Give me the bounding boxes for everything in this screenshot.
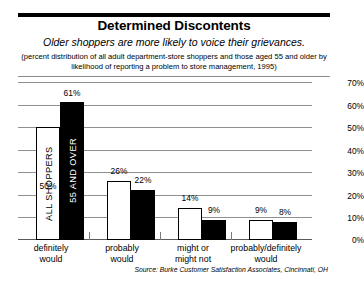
source-note: Source: Burke Customer Satisfaction Asso…	[134, 266, 328, 273]
chart-title: Determined Discontents	[0, 18, 348, 33]
ytick-60: 60%	[332, 101, 364, 111]
value-label-55-over-definitely-would: 61%	[50, 88, 94, 98]
category-line-1: probably	[83, 243, 161, 254]
ytick-50: 50%	[332, 123, 364, 133]
group-separator-3	[231, 232, 232, 240]
bar-all-shoppers-probably-definitely-would	[249, 220, 273, 240]
chart-note: (percent distribution of all adult depar…	[18, 52, 330, 72]
ytick-0: 0%	[332, 235, 364, 245]
category-line-2: would	[83, 254, 161, 265]
ytick-40: 40%	[332, 146, 364, 156]
bar-55-over-probably-would	[131, 190, 155, 240]
group-separator-2	[160, 232, 161, 240]
value-label-55-over-probably-definitely-would: 8%	[263, 207, 307, 217]
value-label-55-over-probably-would: 22%	[121, 175, 165, 185]
header-rule	[18, 13, 330, 17]
category-label-probably-would: probably would	[83, 243, 161, 265]
note-divider	[18, 76, 330, 77]
ytick-30: 30%	[332, 168, 364, 178]
category-label-probably-definitely-would: probably/definitely would	[219, 243, 313, 265]
category-line-1: definitely	[12, 243, 90, 254]
bar-label-55-and-over: 55 AND OVER	[61, 103, 85, 239]
category-label-definitely-would: definitely would	[12, 243, 90, 265]
bar-all-shoppers-probably-would	[107, 181, 131, 240]
category-line-1: probably/definitely	[219, 243, 313, 254]
ytick-10: 10%	[332, 213, 364, 223]
category-line-2: would	[12, 254, 90, 265]
ytick-20: 20%	[332, 191, 364, 201]
gridline-70	[18, 82, 312, 83]
value-label-all-shoppers-might-or-might-not: 14%	[168, 193, 212, 203]
ytick-70: 70%	[332, 78, 364, 88]
plot-area: ALL SHOPPERS 50% 55 AND OVER 61% 26% 22%…	[18, 82, 312, 240]
bar-55-over-might-or-might-not	[202, 220, 226, 240]
category-line-2: would	[219, 254, 313, 265]
chart-subtitle: Older shoppers are more likely to voice …	[0, 36, 348, 48]
group-separator-1	[89, 232, 90, 240]
bar-55-over-definitely-would: 55 AND OVER	[60, 102, 84, 240]
bar-55-over-probably-definitely-would	[273, 222, 297, 240]
value-label-55-over-might-or-might-not: 9%	[192, 205, 236, 215]
